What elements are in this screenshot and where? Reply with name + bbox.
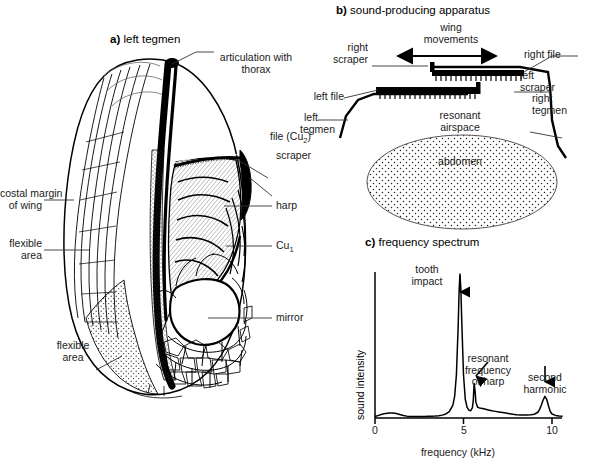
label-right-tegmen: right tegmen bbox=[532, 93, 567, 116]
chart-axes bbox=[375, 272, 562, 424]
left-scraper-line2: scraper bbox=[520, 81, 555, 93]
xtick-label-5: 5 bbox=[454, 425, 474, 437]
second-harmonic-line1: second bbox=[528, 371, 562, 383]
leader-file bbox=[238, 160, 268, 178]
annotation-second-harmonic: second harmonic bbox=[512, 372, 578, 395]
right-file-teeth bbox=[430, 62, 524, 81]
leader-articulation bbox=[172, 52, 214, 64]
tooth-impact-line2: impact bbox=[412, 275, 443, 287]
label-flexible-area-lower: flexible area bbox=[48, 340, 98, 363]
label-right-scraper: right scraper bbox=[306, 42, 368, 65]
panel-b-title: b) sound-producing apparatus bbox=[336, 4, 490, 17]
label-abdomen: abdomen bbox=[412, 156, 508, 168]
left-tegmen-line1: left bbox=[304, 111, 318, 123]
label-harp: harp bbox=[276, 200, 297, 212]
resonant-freq-line2: frequency bbox=[465, 364, 511, 376]
resonant-airspace-line2: airspace bbox=[440, 121, 480, 133]
costal-line1: costal margin bbox=[0, 187, 62, 199]
panel-b-marker: b) bbox=[336, 4, 347, 16]
resonant-freq-line3: of harp bbox=[472, 375, 505, 387]
cu1-prefix: Cu bbox=[276, 239, 289, 251]
annotation-tooth-impact: tooth impact bbox=[397, 264, 457, 287]
cu1-subscript: 1 bbox=[289, 245, 293, 254]
x-axis-label: frequency (kHz) bbox=[368, 447, 548, 459]
label-left-file: left file bbox=[304, 91, 344, 103]
label-articulation-with-thorax: articulation with thorax bbox=[212, 52, 300, 75]
spectrum-trace bbox=[375, 274, 563, 417]
leader-scraper bbox=[250, 178, 272, 196]
panel-c-marker: c) bbox=[365, 236, 375, 248]
right-tegmen-line1: right bbox=[532, 92, 552, 104]
resonant-airspace-line1: resonant bbox=[440, 109, 481, 121]
tooth-impact-line1: tooth bbox=[415, 263, 438, 275]
panel-b-title-text: sound-producing apparatus bbox=[350, 4, 490, 16]
y-axis-label: sound intensity bbox=[354, 350, 366, 420]
flexible-upper-line2: area bbox=[21, 249, 42, 261]
label-resonant-airspace: resonant airspace bbox=[410, 110, 510, 133]
left-scraper-line1: left bbox=[520, 69, 534, 81]
panel-a-title-text: left tegmen bbox=[123, 33, 180, 45]
panel-a-leaders bbox=[0, 50, 300, 470]
label-left-tegmen: left tegmen bbox=[300, 112, 318, 135]
wing-movements-line1: wing bbox=[440, 21, 462, 33]
right-tegmen-line2: tegmen bbox=[532, 104, 567, 116]
flexible-lower-line1: flexible bbox=[57, 339, 90, 351]
wing-movements-line2: movements bbox=[424, 33, 478, 45]
panel-a-title: a) left tegmen bbox=[110, 33, 180, 46]
articulation-line1: articulation with bbox=[220, 51, 292, 63]
label-mirror: mirror bbox=[276, 312, 303, 324]
left-tegmen-line2: tegmen bbox=[300, 123, 335, 135]
left-file-teeth bbox=[376, 82, 481, 99]
costal-line2: of wing bbox=[9, 199, 42, 211]
flexible-upper-line1: flexible bbox=[9, 237, 42, 249]
panel-c-title: c) frequency spectrum bbox=[365, 236, 479, 249]
label-wing-movements: wing movements bbox=[396, 22, 506, 45]
flexible-lower-line2: area bbox=[62, 351, 83, 363]
figure-cricket-sound-production: a) left tegmen bbox=[0, 0, 590, 470]
resonant-freq-line1: resonant bbox=[468, 352, 509, 364]
file-prefix: file (Cu bbox=[270, 130, 303, 142]
leader-right-tegmen bbox=[530, 132, 562, 138]
label-costal-margin-of-wing: costal margin of wing bbox=[0, 188, 42, 211]
label-flexible-area-upper: flexible area bbox=[0, 238, 42, 261]
xtick-label-10: 10 bbox=[542, 425, 562, 437]
articulation-line2: thorax bbox=[241, 63, 270, 75]
second-harmonic-line2: harmonic bbox=[523, 383, 566, 395]
right-scraper-line2: scraper bbox=[333, 53, 368, 65]
abdomen-ellipse bbox=[367, 135, 557, 229]
leader-flexible-lower bbox=[96, 356, 122, 370]
right-scraper-line1: right bbox=[348, 41, 368, 53]
xtick-label-0: 0 bbox=[365, 425, 385, 437]
label-cu1: Cu1 bbox=[276, 240, 294, 256]
panel-a-marker: a) bbox=[110, 33, 120, 45]
panel-c-title-text: frequency spectrum bbox=[378, 236, 479, 248]
label-left-scraper: left scraper bbox=[520, 70, 555, 93]
label-right-file: right file bbox=[524, 49, 561, 61]
